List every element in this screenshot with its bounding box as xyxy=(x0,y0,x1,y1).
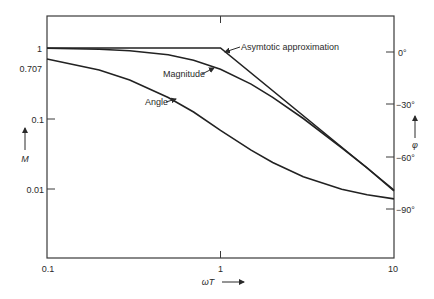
x-tick-label-10: 10 xyxy=(388,264,398,274)
y2-tick-label-0: 0° xyxy=(398,48,407,58)
angle-annotation: Angle xyxy=(145,97,168,107)
x-tick-label-1: 1 xyxy=(218,264,223,274)
y2-axis-label: φ xyxy=(412,140,418,150)
plot-frame xyxy=(47,16,394,258)
y-tick-label-0707: 0.707 xyxy=(19,64,42,74)
y-tick-label-1: 1 xyxy=(37,44,42,54)
y2-tick-label-30: −30° xyxy=(396,100,415,110)
y2-tick-label-90: −90° xyxy=(396,205,415,215)
asymptote-pointer-icon xyxy=(225,47,240,52)
y-tick-label-0.01: 0.01 xyxy=(26,185,44,195)
magnitude-annotation: Magnitude xyxy=(163,69,205,79)
asymptote-annotation: Asymtotic approximation xyxy=(241,42,339,52)
y-axis-label: M xyxy=(21,154,29,164)
y-tick-label-0.1: 0.1 xyxy=(31,115,44,125)
bode-plot: 1 0.707 0.1 0.01 0° −30° −60° −90° 0.1 1… xyxy=(0,0,434,299)
angle-curve xyxy=(47,59,394,199)
x-tick-label-0.1: 0.1 xyxy=(42,264,55,274)
y2-tick-label-60: −60° xyxy=(396,153,415,163)
x-axis-label: ωT xyxy=(202,277,216,287)
